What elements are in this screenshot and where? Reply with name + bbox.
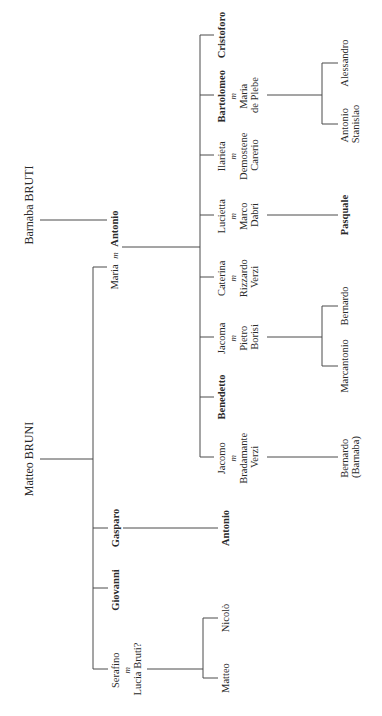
spouse-line1: Maria [238,83,249,108]
root-matteo-bruni: Matteo BRUNI [22,422,36,496]
spouse-line2: Carerio [249,139,260,171]
person-jacomo: Jacomo m Bradamante Verzi [216,430,260,483]
spouse-line2: Borisi [249,324,260,350]
person-marcantonio: Marcantonio [339,339,350,393]
svg-text:Jacomo m Bradamant: Jacomo m Bradamante Verzi [216,430,260,483]
connector-lines [40,35,338,678]
name-line2: (Barnaba) [350,436,362,478]
person-antonio: Antonio [220,510,231,546]
person-cristoforo: Cristoforo [216,12,227,58]
marriage-symbol: m [228,93,238,100]
name-label: Barnaba BRUTI [22,166,36,245]
person-bernardo-barnaba: Bernardo (Barnaba) [339,436,362,478]
spouse-line1: Demostene [238,132,249,180]
name-line1: Jacomo [216,442,227,474]
name-label: Matteo BRUNI [22,422,36,496]
name-line1: Bartolomeo [216,70,227,123]
person-lucietta: Lucietta m Marco Dabri [216,196,260,233]
name-line1: Jacoma [216,322,227,354]
marriage-symbol: m [122,667,132,674]
spouse-line: Lucia Bruti? [132,642,143,695]
person-nicolo: Nicolò [220,604,231,633]
marriage-symbol: m [228,455,238,462]
name-line2: Stanislao [350,105,361,144]
name-line1: Bernardo [339,439,350,478]
person-bernardo: Bernardo [339,286,350,325]
name-label: Gasparo [110,509,121,547]
person-ilarieta: Ilarieta m Demostene Carerio [216,130,260,180]
spouse-line1: Rizzardo [238,259,249,297]
name-line1: Serafino [110,653,121,689]
svg-text:Bernardo (Barnaba): Bernardo (Barnaba) [339,436,362,478]
name-line1: Lucietta [216,199,227,234]
svg-text:Antonio Stanislao: Antonio Stanislao [339,105,361,144]
person-pasquale: Pasquale [339,195,350,236]
person-giovanni: Giovanni [110,569,121,611]
name-label: Giovanni [110,569,121,611]
maria-label: Maria [109,264,120,289]
svg-text:Lucietta m Marco: Lucietta m Marco Dabri [216,196,260,233]
svg-text:Bartolomeo m Maria: Bartolomeo m Maria de Plebe [216,67,260,122]
person-bartolomeo: Bartolomeo m Maria de Plebe [216,67,260,122]
family-tree-diagram: Barnaba BRUTI Matteo BRUNI Maria m Anton… [0,0,382,716]
svg-text:Maria m Antonio: Maria m Antonio [109,210,120,289]
person-jacoma: Jacoma m Pietro Borisi [216,320,260,354]
spouse-line1: Pietro [238,326,249,351]
name-label: Cristoforo [216,12,227,58]
marriage-symbol: m [228,213,238,220]
name-label: Marcantonio [339,339,350,393]
spouse-line2: Verzi [249,266,260,288]
name-line1: Ilarieta [216,141,227,171]
name-label: Bernardo [339,286,350,325]
spouse-line2: de Plebe [249,77,260,113]
root-barnaba-bruti: Barnaba BRUTI [22,166,36,245]
person-benedetto: Benedetto [216,375,227,420]
name-label: Alessandro [339,39,350,86]
svg-text:Caterina m Rizzard: Caterina m Rizzardo Verzi [216,257,260,298]
antonio-label: Antonio [109,210,120,246]
svg-text:Jacoma m Pietro: Jacoma m Pietro Borisi [216,320,260,354]
name-line1: Caterina [216,260,227,296]
person-antonio-stanislao: Antonio Stanislao [339,105,361,144]
marriage-symbol: m [228,335,238,342]
person-gasparo: Gasparo [110,509,121,547]
person-maria-m-antonio: Maria m Antonio [109,210,120,289]
name-line1: Antonio [339,108,350,142]
marriage-symbol: m [228,153,238,160]
spouse-line2: Verzi [249,446,260,468]
name-label: Pasquale [339,195,350,236]
person-alessandro: Alessandro [339,39,350,86]
marriage-symbol: m [228,275,238,282]
svg-text:Ilarieta m Demoste: Ilarieta m Demostene Carerio [216,130,260,180]
spouse-line2: Dabri [249,203,260,227]
person-caterina: Caterina m Rizzardo Verzi [216,257,260,298]
name-label: Antonio [220,510,231,546]
spouse-line1: Marco [238,203,249,230]
marriage-symbol: m [110,252,120,259]
person-serafino: Serafino m Lucia Bruti? [110,642,143,695]
person-matteo: Matteo [220,663,231,693]
name-label: Nicolò [220,604,231,633]
spouse-line1: Bradamante [238,433,249,484]
name-label: Benedetto [216,375,227,420]
svg-text:Serafino m Lucia B: Serafino m Lucia Bruti? [110,642,143,695]
name-label: Matteo [220,663,231,693]
